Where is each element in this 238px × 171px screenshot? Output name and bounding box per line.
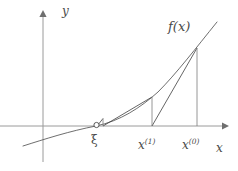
figure-canvas: y x f(x) ξ x(1) x(0) — [0, 0, 238, 171]
drop-lines-group — [103, 48, 197, 126]
iterate-1-label: x(1) — [138, 139, 155, 151]
root-label: ξ — [91, 134, 98, 146]
iterate-0-base: x — [182, 138, 189, 152]
x-axis-label: x — [216, 142, 223, 154]
iterate-0-superscript: (0) — [189, 137, 200, 146]
newton-method-diagram — [0, 0, 238, 171]
secant-lines-group — [98, 48, 198, 126]
iterate-1-superscript: (1) — [145, 137, 156, 146]
x-axis-arrow-icon — [222, 122, 229, 129]
iterate-1-base: x — [138, 138, 145, 152]
function-label: f(x) — [168, 20, 190, 33]
secant-line-1 — [103, 97, 152, 126]
y-axis-arrow-icon — [39, 10, 46, 17]
function-curve — [23, 22, 217, 146]
function-curve-group — [23, 22, 217, 146]
y-axis-label: y — [62, 5, 69, 17]
iterate-0-label: x(0) — [182, 139, 199, 151]
root-marker-icon — [94, 122, 99, 127]
secant-line-0 — [152, 48, 197, 126]
